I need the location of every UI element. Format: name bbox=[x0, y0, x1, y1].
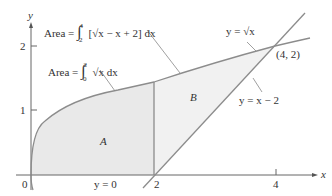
y-axis-label: y bbox=[28, 10, 33, 21]
y-tick-label-2: 2 bbox=[20, 41, 26, 52]
line-label: y = x − 2 bbox=[239, 95, 279, 106]
leader-line bbox=[253, 78, 262, 92]
y-tick-label-1: 1 bbox=[20, 105, 26, 116]
x-tick-label-2: 2 bbox=[154, 179, 160, 190]
x-tick-label-4: 4 bbox=[273, 179, 279, 190]
y-axis-arrow-icon bbox=[29, 22, 33, 28]
y-eq-0-label: y = 0 bbox=[94, 179, 117, 190]
x-tick-label-0: 0 bbox=[22, 179, 28, 190]
area-b-formula: Area = ∫42[√x − x + 2] dx bbox=[44, 24, 156, 40]
x-axis-label: x bbox=[321, 169, 326, 180]
leader-sqrt bbox=[247, 42, 256, 51]
region-b-label: B bbox=[190, 92, 197, 103]
intersection-label: (4, 2) bbox=[276, 49, 300, 60]
x-axis-arrow-icon bbox=[312, 173, 318, 177]
area-a-formula: Area = ∫20√x dx bbox=[48, 63, 118, 79]
sqrt-curve-label: y = √x bbox=[226, 26, 255, 37]
region-a-label: A bbox=[100, 136, 107, 147]
